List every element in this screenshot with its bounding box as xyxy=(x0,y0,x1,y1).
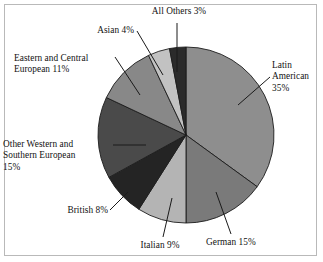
pie-slices xyxy=(98,47,274,223)
slice-label-british: British 8% xyxy=(36,205,108,216)
pie-plot-area: All Others 3% Asian 4% Eastern and Centr… xyxy=(0,0,323,262)
leader-line-british xyxy=(110,192,128,210)
slice-label-latin-american: Latin American 35% xyxy=(272,60,320,94)
slice-label-asian: Asian 4% xyxy=(78,25,134,36)
slice-label-all-others: All Others 3% xyxy=(139,6,219,17)
slice-label-german: German 15% xyxy=(206,237,290,248)
pie-svg xyxy=(0,0,323,262)
slice-label-italian: Italian 9% xyxy=(125,240,195,251)
slice-label-eastern-and-central-european: Eastern and Central European 11% xyxy=(14,53,114,76)
slice-label-other-western-and-southern-european: Other Western and Southern European 15% xyxy=(3,139,113,173)
pie-chart-figure: All Others 3% Asian 4% Eastern and Centr… xyxy=(0,0,323,262)
